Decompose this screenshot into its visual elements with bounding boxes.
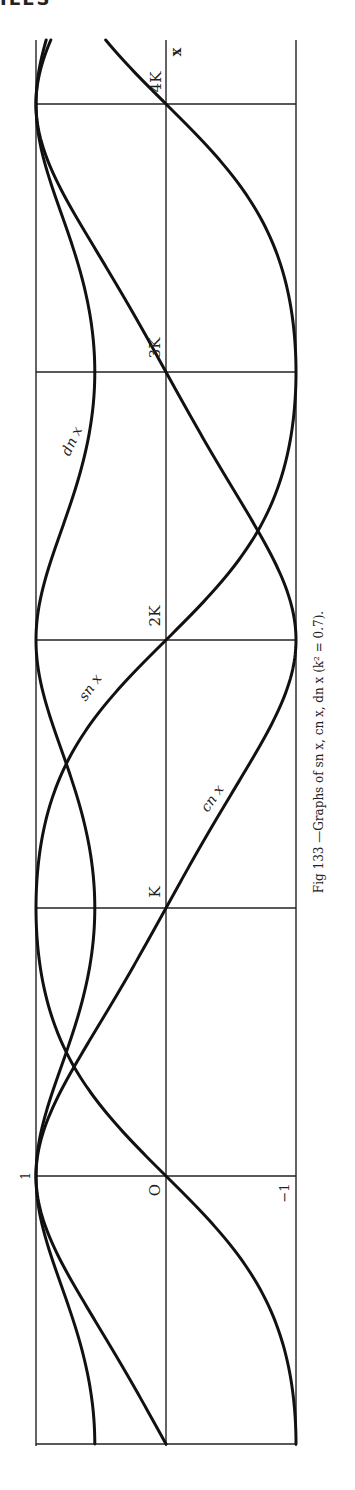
figure-caption: Fig 133 —Graphs of sn x, cn x, dn x (k² …	[312, 611, 326, 893]
curve-label-dn: dn x	[58, 424, 85, 458]
x-tick-label-4K: 4K	[147, 71, 165, 93]
curve-dn	[36, 40, 95, 1444]
y-tick-label-minus-1: −1	[277, 1183, 292, 1202]
x-tick-label-K: K	[146, 886, 164, 898]
elliptic-functions-chart: 1 O −1 K 2K 3K 4K x dn x sn x cn x Fig 1…	[0, 0, 355, 1490]
x-tick-label-3K: 3K	[146, 337, 164, 359]
x-axis-name: x	[168, 47, 184, 56]
curve-label-sn: sn x	[75, 671, 105, 704]
x-tick-label-2K: 2K	[146, 605, 164, 627]
y-tick-label-1: 1	[19, 1172, 33, 1180]
origin-label: O	[146, 1184, 164, 1196]
